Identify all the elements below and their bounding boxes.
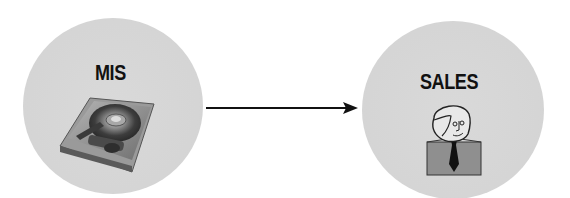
person-icon <box>426 104 482 176</box>
hard-drive-icon <box>60 96 158 172</box>
